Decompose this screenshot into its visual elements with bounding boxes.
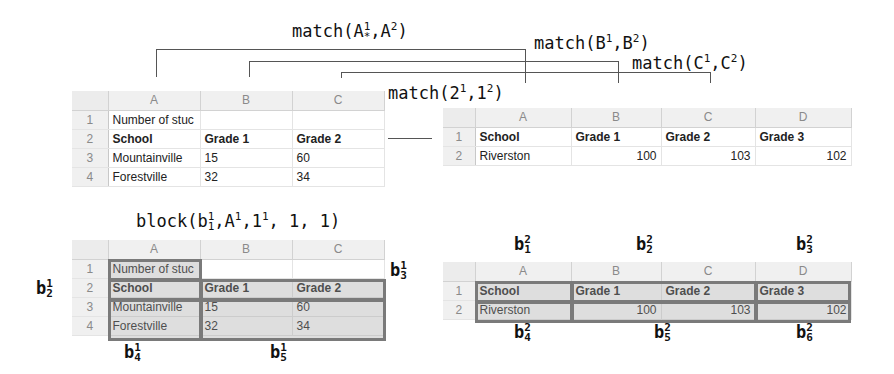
- label-b1-2: b12: [36, 278, 53, 299]
- row-number[interactable]: 4: [72, 167, 108, 186]
- cell[interactable]: Number of stuc: [108, 110, 200, 129]
- table-row: 1 Number of stuc: [72, 110, 384, 129]
- supsub: 1*: [364, 22, 371, 42]
- cell[interactable]: Mountainville: [108, 148, 200, 167]
- column-header[interactable]: B: [571, 108, 661, 127]
- block-b2-1[interactable]: [475, 281, 573, 303]
- table-row: 2 Riverston 100 103 102: [443, 146, 851, 165]
- row-number[interactable]: 1: [72, 110, 108, 129]
- cell[interactable]: School: [108, 129, 200, 148]
- table-row: 3 Mountainville 15 60: [72, 148, 384, 167]
- column-header[interactable]: A: [108, 240, 200, 259]
- cell[interactable]: 60: [292, 148, 384, 167]
- column-header[interactable]: B: [571, 262, 661, 281]
- arg: A: [381, 21, 391, 41]
- label-b2-5: b25: [654, 322, 671, 343]
- b: b: [270, 342, 280, 362]
- sup: 1: [262, 210, 269, 223]
- b: b: [636, 234, 646, 254]
- cell[interactable]: Grade 1: [200, 129, 292, 148]
- cell[interactable]: Grade 1: [571, 127, 661, 146]
- cell[interactable]: School: [475, 127, 571, 146]
- block-b2-4[interactable]: [475, 301, 573, 323]
- supsub: 25: [664, 323, 671, 343]
- column-header[interactable]: A: [108, 91, 200, 110]
- cell[interactable]: Grade 2: [292, 129, 384, 148]
- b: b: [514, 234, 524, 254]
- cell[interactable]: Riverston: [475, 146, 571, 165]
- column-header[interactable]: C: [661, 262, 755, 281]
- column-header[interactable]: A: [475, 262, 571, 281]
- row-number[interactable]: 2: [72, 129, 108, 148]
- supsub: 11: [208, 212, 215, 232]
- row-number[interactable]: 4: [72, 316, 108, 335]
- row-number[interactable]: 2: [443, 300, 475, 319]
- column-header[interactable]: C: [292, 91, 384, 110]
- column-header[interactable]: D: [755, 108, 851, 127]
- cell[interactable]: Forestville: [108, 167, 200, 186]
- block-b1-3[interactable]: [200, 279, 386, 301]
- cell[interactable]: 100: [571, 146, 661, 165]
- label-b2-4: b24: [514, 322, 531, 343]
- supsub: 13: [400, 261, 407, 281]
- row-number[interactable]: 3: [72, 297, 108, 316]
- sup: 1: [606, 32, 613, 45]
- column-header[interactable]: D: [755, 262, 851, 281]
- row-number[interactable]: 1: [443, 127, 475, 146]
- cell[interactable]: Grade 3: [755, 127, 851, 146]
- label-b1-3: b13: [390, 260, 407, 281]
- cell[interactable]: 32: [200, 167, 292, 186]
- row-number[interactable]: 2: [72, 278, 108, 297]
- column-header[interactable]: C: [292, 240, 384, 259]
- tail: , 1, 1): [269, 211, 341, 231]
- block-b1-1[interactable]: [108, 259, 202, 281]
- column-header[interactable]: B: [200, 91, 292, 110]
- block-b1-5[interactable]: [200, 299, 386, 341]
- column-header[interactable]: A: [475, 108, 571, 127]
- row-number[interactable]: 1: [443, 281, 475, 300]
- block-b2-2[interactable]: [571, 281, 757, 303]
- bracket-b-left: [249, 61, 250, 77]
- column-header-row: A B C: [72, 240, 384, 259]
- bracket-a-right: [525, 49, 526, 83]
- block-formula: block(b11,A1,11, 1, 1): [136, 210, 340, 232]
- cell[interactable]: Grade 2: [661, 127, 755, 146]
- column-header-row: A B C: [72, 91, 384, 110]
- table-row: 4 Forestville 32 34: [72, 167, 384, 186]
- cell[interactable]: [200, 259, 292, 278]
- label-b2-3: b23: [796, 234, 813, 255]
- b: b: [124, 342, 134, 362]
- row-number[interactable]: 1: [72, 259, 108, 278]
- block-b1-4[interactable]: [108, 299, 202, 341]
- sub: 1: [524, 245, 531, 255]
- cell[interactable]: 102: [755, 146, 851, 165]
- sub: 3: [400, 271, 407, 281]
- block-b2-3[interactable]: [755, 281, 851, 303]
- sup: 2: [487, 82, 494, 95]
- row-number[interactable]: 2: [443, 146, 475, 165]
- sheet1-table: A B C 1 Number of stuc 2 School Grade 1 …: [72, 91, 385, 187]
- table-row: 2 School Grade 1 Grade 2: [72, 129, 384, 148]
- sup: 2: [633, 32, 640, 45]
- sub: 1: [208, 222, 215, 232]
- fn: match(: [388, 83, 449, 103]
- sheet2-table: A B C D 1 School Grade 1 Grade 2 Grade 3…: [443, 108, 852, 166]
- b: b: [514, 322, 524, 342]
- supsub: 24: [524, 323, 531, 343]
- block-b1-2[interactable]: [108, 279, 202, 301]
- supsub: 26: [806, 323, 813, 343]
- sup: 1: [460, 82, 467, 95]
- block-b2-5[interactable]: [571, 301, 757, 323]
- row-number[interactable]: 3: [72, 148, 108, 167]
- cell[interactable]: 103: [661, 146, 755, 165]
- cell[interactable]: [292, 259, 384, 278]
- cell[interactable]: [292, 110, 384, 129]
- column-header[interactable]: B: [200, 240, 292, 259]
- column-header[interactable]: C: [661, 108, 755, 127]
- block-b2-6[interactable]: [755, 301, 851, 323]
- arg: 1: [252, 211, 262, 231]
- cell[interactable]: [200, 110, 292, 129]
- cell[interactable]: 15: [200, 148, 292, 167]
- sub: *: [364, 32, 371, 42]
- cell[interactable]: 34: [292, 167, 384, 186]
